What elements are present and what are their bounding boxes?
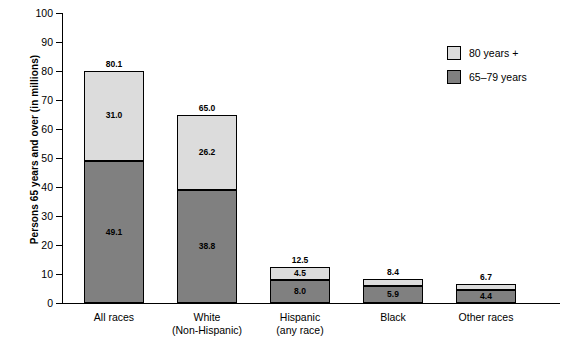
y-axis-line — [62, 13, 63, 303]
bar-segment-65-79[interactable]: 5.9 — [363, 286, 423, 303]
bar-segment-label: 8.0 — [294, 287, 306, 296]
y-axis-title: Persons 65 years and over (in millions) — [29, 20, 40, 280]
bar-segment-65-79[interactable]: 8.0 — [270, 280, 330, 303]
bar-total-label: 8.4 — [363, 267, 423, 277]
y-tick-label: 60 — [41, 123, 53, 135]
bar-column[interactable]: 4.4 — [456, 284, 516, 303]
stacked-bar-chart: Persons 65 years and over (in millions) … — [0, 0, 576, 344]
y-tick-mark — [56, 129, 62, 130]
bar-segment-label: 26.2 — [199, 148, 216, 157]
y-tick-mark — [56, 158, 62, 159]
y-tick-mark — [56, 71, 62, 72]
y-tick-mark — [56, 100, 62, 101]
legend-swatch-light — [447, 46, 461, 60]
y-tick-label: 10 — [41, 268, 53, 280]
bar-segment-label: 31.0 — [106, 111, 123, 120]
y-tick-label: 80 — [41, 65, 53, 77]
bar-column[interactable]: 38.826.2 — [177, 115, 237, 304]
bar-total-label: 6.7 — [456, 272, 516, 282]
bar-total-label: 65.0 — [177, 103, 237, 113]
bar-total-label: 80.1 — [84, 59, 144, 69]
y-tick-mark — [56, 187, 62, 188]
y-tick-label: 20 — [41, 239, 53, 251]
y-tick-mark — [56, 245, 62, 246]
bar-column[interactable]: 49.131.0 — [84, 71, 144, 303]
y-tick-label: 50 — [41, 152, 53, 164]
y-tick-label: 40 — [41, 181, 53, 193]
bar-segment-80-plus[interactable] — [456, 284, 516, 291]
legend-label: 65–79 years — [469, 71, 527, 83]
y-tick-label: 30 — [41, 210, 53, 222]
legend-label: 80 years + — [469, 47, 518, 59]
legend-item[interactable]: 65–79 years — [447, 70, 527, 84]
y-tick-label: 70 — [41, 94, 53, 106]
bar-segment-65-79[interactable]: 38.8 — [177, 190, 237, 303]
bar-column[interactable]: 5.9 — [363, 279, 423, 303]
legend: 80 years +65–79 years — [447, 46, 527, 94]
bar-segment-label: 5.9 — [387, 290, 399, 299]
bar-segment-65-79[interactable]: 49.1 — [84, 161, 144, 303]
y-tick-label: 100 — [35, 7, 53, 19]
bar-segment-80-plus[interactable] — [363, 279, 423, 286]
bar-segment-label: 4.5 — [294, 269, 306, 278]
x-axis-label-line: Other races — [421, 311, 551, 324]
x-axis-label: Other races — [421, 311, 551, 324]
bar-total-label: 12.5 — [270, 255, 330, 265]
bar-segment-label: 49.1 — [106, 228, 123, 237]
bar-segment-80-plus[interactable]: 31.0 — [84, 71, 144, 161]
y-tick-label: 0 — [47, 297, 53, 309]
bar-segment-80-plus[interactable]: 26.2 — [177, 115, 237, 191]
bar-segment-65-79[interactable]: 4.4 — [456, 290, 516, 303]
bar-segment-label: 38.8 — [199, 242, 216, 251]
bar-segment-label: 4.4 — [480, 292, 492, 301]
y-tick-label: 90 — [41, 36, 53, 48]
y-tick-mark — [56, 42, 62, 43]
bar-segment-80-plus[interactable]: 4.5 — [270, 267, 330, 280]
y-tick-mark — [56, 274, 62, 275]
legend-swatch-dark — [447, 70, 461, 84]
x-axis-label-line: (any race) — [235, 324, 365, 337]
x-axis-line — [62, 303, 560, 304]
bar-column[interactable]: 8.04.5 — [270, 267, 330, 303]
y-tick-mark — [56, 216, 62, 217]
legend-item[interactable]: 80 years + — [447, 46, 527, 60]
y-tick-mark — [56, 13, 62, 14]
y-tick-mark — [56, 303, 62, 304]
